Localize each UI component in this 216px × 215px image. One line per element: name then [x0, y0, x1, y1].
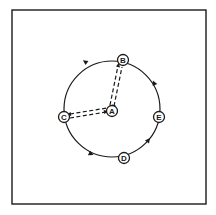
node-label: C — [61, 113, 67, 122]
node-b: B — [118, 55, 129, 66]
node-label: B — [120, 56, 126, 65]
node-label: D — [121, 154, 127, 163]
network-diagram: A B C D E — [0, 0, 216, 215]
node-label: A — [109, 107, 115, 116]
node-d: D — [119, 153, 130, 164]
node-label: E — [156, 113, 162, 122]
node-e: E — [154, 112, 165, 123]
link-a-c — [70, 108, 107, 118]
link-a-b — [110, 66, 122, 106]
arrow-icon — [81, 58, 88, 65]
node-c: C — [59, 112, 70, 123]
node-a: A — [107, 106, 118, 117]
